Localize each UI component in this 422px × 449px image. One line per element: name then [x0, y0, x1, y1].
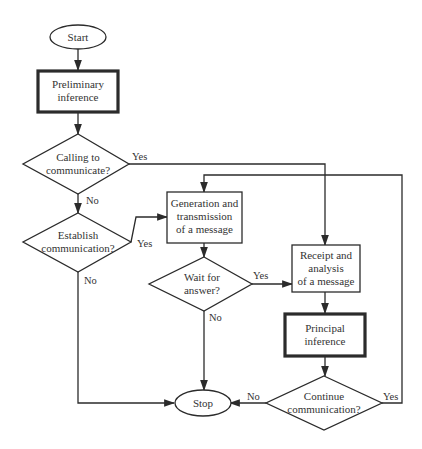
node-establish-line2: communication?: [41, 242, 114, 254]
node-generation-line1: Generation and: [171, 197, 239, 209]
node-principal-line1: Principal: [305, 322, 345, 334]
node-continue-line2: communication?: [287, 403, 360, 415]
node-stop: Stop: [175, 390, 231, 416]
node-preliminary-line2: inference: [58, 91, 99, 103]
node-principal-line2: inference: [305, 335, 346, 347]
node-generation-transmission: Generation and transmission of a message: [167, 192, 242, 243]
label-wait-yes: Yes: [253, 270, 268, 281]
node-preliminary-line1: Preliminary: [52, 78, 104, 90]
label-wait-no: No: [209, 312, 222, 323]
node-receipt-line1: Receipt and: [300, 249, 353, 261]
node-calling-to-communicate: Calling to communicate?: [23, 134, 129, 194]
node-receipt-line3: of a message: [298, 275, 355, 287]
node-receipt-line2: analysis: [308, 262, 343, 274]
node-wait-line1: Wait for: [184, 271, 220, 283]
label-establish-no: No: [84, 275, 97, 286]
node-wait-line2: answer?: [184, 284, 220, 296]
node-generation-line3: of a message: [176, 223, 233, 235]
node-stop-label: Stop: [193, 397, 214, 409]
label-establish-yes: Yes: [137, 238, 152, 249]
node-establish-communication: Establish communication?: [23, 213, 131, 272]
node-start-label: Start: [68, 31, 89, 43]
label-continue-yes: Yes: [383, 391, 398, 402]
node-establish-line1: Establish: [58, 229, 99, 241]
flowchart-canvas: Start Preliminary inference Calling to c…: [0, 0, 422, 449]
node-continue-communication: Continue communication?: [266, 376, 382, 430]
node-continue-line1: Continue: [304, 390, 344, 402]
edge-establish-no-to-stop: [78, 272, 174, 403]
node-calling-line1: Calling to: [56, 151, 100, 163]
label-calling-yes: Yes: [132, 151, 147, 162]
node-calling-line2: communicate?: [46, 164, 110, 176]
label-calling-no: No: [86, 195, 99, 206]
node-start: Start: [50, 25, 106, 49]
node-wait-for-answer: Wait for answer?: [149, 257, 252, 311]
node-preliminary-inference: Preliminary inference: [38, 71, 118, 112]
label-continue-no: No: [247, 391, 260, 402]
node-generation-line2: transmission: [177, 210, 233, 222]
node-receipt-analysis: Receipt and analysis of a message: [292, 245, 360, 292]
node-principal-inference: Principal inference: [285, 314, 365, 356]
